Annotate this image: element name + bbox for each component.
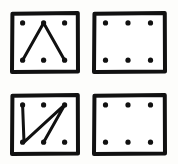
dot-top-right[interactable] <box>148 20 153 25</box>
dot-bottom-right[interactable] <box>148 58 153 63</box>
dot-top-center[interactable] <box>125 102 130 107</box>
panel-top-right-canvas <box>92 11 167 74</box>
dot-bottom-left[interactable] <box>103 58 108 63</box>
dot-top-right[interactable] <box>62 102 67 107</box>
panel-top-left[interactable] <box>10 11 80 74</box>
figure-root <box>0 0 178 164</box>
dot-top-left[interactable] <box>103 102 108 107</box>
panel-bottom-left-canvas <box>10 93 80 156</box>
dot-bottom-left[interactable] <box>20 140 25 145</box>
dot-bottom-center[interactable] <box>125 140 130 145</box>
dot-bottom-center[interactable] <box>41 140 46 145</box>
dot-bottom-right[interactable] <box>148 140 153 145</box>
panel-grid <box>0 0 178 164</box>
panel-bottom-right-canvas <box>92 93 167 156</box>
dot-bottom-center[interactable] <box>41 58 46 63</box>
panel-top-right[interactable] <box>92 11 167 74</box>
dot-top-center[interactable] <box>41 20 46 25</box>
dot-top-left[interactable] <box>103 20 108 25</box>
dot-top-right[interactable] <box>62 20 67 25</box>
dot-bottom-left[interactable] <box>103 140 108 145</box>
panel-top-left-canvas <box>10 11 80 74</box>
dot-top-left[interactable] <box>20 102 25 107</box>
dot-bottom-right[interactable] <box>62 140 67 145</box>
panel-bottom-right[interactable] <box>92 93 167 156</box>
dot-top-left[interactable] <box>20 20 25 25</box>
dot-bottom-left[interactable] <box>20 58 25 63</box>
dot-top-center[interactable] <box>41 102 46 107</box>
panel-bottom-left[interactable] <box>10 93 80 156</box>
dot-bottom-right[interactable] <box>62 58 67 63</box>
dot-top-right[interactable] <box>148 102 153 107</box>
dot-top-center[interactable] <box>125 20 130 25</box>
dot-bottom-center[interactable] <box>125 58 130 63</box>
